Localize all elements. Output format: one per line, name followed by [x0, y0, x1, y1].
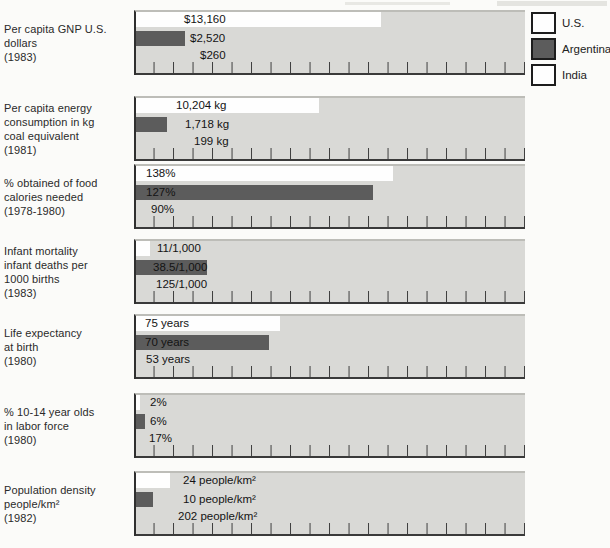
chart-panel-calories: 138% 127% 90%	[134, 164, 525, 229]
bar-value-label: $13,160	[184, 12, 226, 27]
bar-row-argentina: 70 years	[136, 335, 525, 350]
bar-row-argentina: 127%	[136, 185, 525, 200]
bar-value-label: 202 people/km²	[178, 509, 257, 524]
bar-us	[136, 241, 150, 256]
axis-ticks	[136, 523, 525, 536]
bar-row-us: 2%	[136, 395, 525, 410]
legend-label-argentina: Argentina	[562, 43, 610, 55]
bar-value-label: 1,718 kg	[185, 117, 229, 132]
bar-row-india: 17%	[136, 431, 525, 446]
bar-value-label: 75 years	[145, 316, 189, 331]
bar-value-label: $260	[200, 48, 226, 63]
bar-argentina	[136, 117, 167, 132]
indicator-label-life-expectancy: Life expectancy at birth (1980)	[4, 314, 132, 379]
chart-panel-gnp: $13,160 $2,520 $260	[134, 10, 525, 75]
bar-value-label: 53 years	[146, 352, 190, 367]
chart-panel-energy: 10,204 kg 1,718 kg 199 kg	[134, 96, 525, 161]
bar-value-label: 11/1,000	[157, 241, 201, 256]
bar-row-argentina: 10 people/km²	[136, 492, 525, 507]
legend-label-us: U.S.	[562, 17, 584, 29]
chart-panel-population-density: 24 people/km² 10 people/km² 202 people/k…	[134, 471, 525, 536]
bar-value-label: 138%	[146, 166, 175, 181]
bar-row-argentina: $2,520	[136, 31, 525, 46]
legend: U.S. Argentina India	[531, 12, 610, 90]
bar-value-label: 17%	[149, 431, 172, 446]
scan-artifact	[497, 1, 607, 6]
bar-value-label: 70 years	[145, 335, 189, 350]
axis-ticks	[136, 291, 525, 304]
bar-value-label: 90%	[151, 202, 174, 217]
bar-value-label: 2%	[150, 395, 167, 410]
bar-value-label: 6%	[150, 414, 167, 429]
legend-item-us: U.S.	[531, 12, 610, 34]
bar-value-label: 199 kg	[194, 134, 229, 149]
legend-swatch-india	[531, 64, 556, 86]
chart-panel-life-expectancy: 75 years 70 years 53 years	[134, 314, 525, 379]
bar-row-india: 90%	[136, 202, 525, 217]
indicator-label-gnp: Per capita GNP U.S. dollars (1983)	[4, 10, 132, 75]
bar-argentina	[136, 414, 145, 429]
axis-ticks	[136, 62, 525, 75]
indicator-label-population-density: Population density people/km² (1982)	[4, 471, 132, 536]
bar-argentina	[136, 31, 185, 46]
bar-value-label: 127%	[146, 185, 175, 200]
bar-row-india: 125/1,000	[136, 277, 525, 292]
legend-swatch-us	[531, 12, 556, 34]
indicator-label-energy: Per capita energy consumption in kg coal…	[4, 96, 132, 161]
bar-row-us: 11/1,000	[136, 241, 525, 256]
chart-panel-child-labor: 2% 6% 17%	[134, 393, 525, 458]
bar-us	[136, 12, 381, 27]
legend-item-argentina: Argentina	[531, 38, 610, 60]
bar-us	[136, 395, 140, 410]
bar-india	[136, 134, 140, 149]
indicator-label-child-labor: % 10-14 year olds in labor force (1980)	[4, 393, 132, 458]
bar-row-us: 138%	[136, 166, 525, 181]
legend-label-india: India	[562, 69, 587, 81]
bar-row-us: $13,160	[136, 12, 525, 27]
axis-ticks	[136, 445, 525, 458]
indicator-label-infant-mortality: Infant mortality infant deaths per 1000 …	[4, 239, 132, 304]
bar-row-argentina: 6%	[136, 414, 525, 429]
bar-value-label: $2,520	[190, 31, 225, 46]
bar-row-us: 24 people/km²	[136, 473, 525, 488]
bar-row-india: 199 kg	[136, 134, 525, 149]
bar-value-label: 10,204 kg	[176, 98, 227, 113]
bar-us	[136, 473, 170, 488]
bar-row-india: 53 years	[136, 352, 525, 367]
axis-ticks	[136, 366, 525, 379]
bar-row-us: 10,204 kg	[136, 98, 525, 113]
scan-artifact	[345, 2, 450, 5]
country-comparison-chart: U.S. Argentina India Per capita GNP U.S.…	[0, 0, 610, 548]
bar-india	[136, 48, 141, 63]
indicator-label-calories: % obtained of food calories needed (1978…	[4, 164, 132, 229]
bar-value-label: 38.5/1,000	[153, 260, 207, 275]
legend-item-india: India	[531, 64, 610, 86]
bar-row-india: 202 people/km²	[136, 509, 525, 524]
legend-swatch-argentina	[531, 38, 556, 60]
bar-row-us: 75 years	[136, 316, 525, 331]
axis-ticks	[136, 148, 525, 161]
bar-value-label: 125/1,000	[156, 277, 207, 292]
bar-us	[136, 98, 319, 113]
bar-row-argentina: 1,718 kg	[136, 117, 525, 132]
bar-value-label: 24 people/km²	[183, 473, 256, 488]
chart-panel-infant-mortality: 11/1,000 38.5/1,000 125/1,000	[134, 239, 525, 304]
bar-row-india: $260	[136, 48, 525, 63]
bar-argentina	[136, 492, 153, 507]
bar-value-label: 10 people/km²	[183, 492, 256, 507]
bar-row-argentina: 38.5/1,000	[136, 260, 525, 275]
axis-ticks	[136, 216, 525, 229]
